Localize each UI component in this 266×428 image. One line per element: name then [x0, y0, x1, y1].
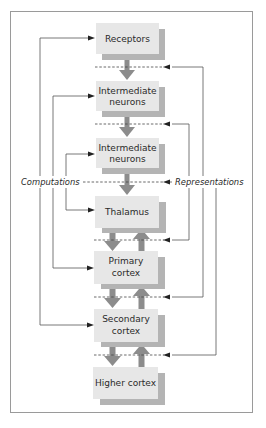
- node-label: Receptors: [105, 34, 150, 44]
- node-label: Thalamus: [104, 207, 149, 217]
- node-label-line-1: Secondary: [102, 314, 150, 324]
- node-label-line-2: cortex: [112, 326, 141, 336]
- arrow-up-higher-secondary: [133, 344, 150, 367]
- arrow-up-secondary-primary: [133, 286, 150, 309]
- node-label: Higher cortex: [95, 378, 157, 388]
- node-intermediate-neurons-2: Intermediate neurons: [96, 138, 165, 174]
- node-primary-cortex: Primary cortex: [94, 251, 165, 289]
- computation-arrowheads: [87, 36, 95, 328]
- node-label-line-2: cortex: [112, 268, 141, 278]
- node-label-line-2: neurons: [109, 97, 146, 107]
- node-thalamus: Thalamus: [95, 196, 166, 233]
- computations-label: Computations: [21, 177, 80, 187]
- node-higher-cortex: Higher cortex: [93, 367, 165, 405]
- node-secondary-cortex: Secondary cortex: [94, 309, 165, 347]
- node-label-line-2: neurons: [109, 154, 146, 164]
- node-label-line-1: Intermediate: [98, 86, 157, 96]
- node-receptors: Receptors: [96, 23, 165, 60]
- node-intermediate-neurons-1: Intermediate neurons: [96, 81, 165, 117]
- sensory-hierarchy-diagram: Receptors Intermediate neurons Intermedi…: [0, 0, 266, 428]
- representation-lines: [170, 67, 216, 355]
- node-label-line-1: Primary: [109, 256, 144, 266]
- representations-label: Representations: [175, 177, 244, 187]
- node-label-line-1: Intermediate: [98, 143, 157, 153]
